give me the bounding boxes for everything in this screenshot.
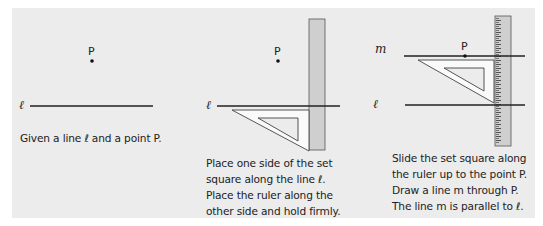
point-p-label: P	[274, 46, 281, 57]
caption-step-3: Slide the set square along the ruler up …	[392, 150, 527, 214]
panel-1-figure	[30, 59, 153, 106]
point-p	[276, 59, 280, 63]
caption-line: Place one side of the set	[206, 155, 340, 171]
caption-line: The line m is parallel to ℓ.	[392, 198, 527, 214]
line-m-label: m	[375, 43, 386, 55]
caption-line: other side and hold firmly.	[206, 203, 340, 219]
caption-line: Place the ruler along the	[206, 187, 340, 203]
caption-line: Draw a line m through P.	[392, 182, 527, 198]
set-square	[232, 110, 309, 151]
point-p-label: P	[88, 46, 95, 57]
line-l-label: ℓ	[373, 98, 378, 110]
caption-step-1: Given a line ℓ and a point P.	[20, 130, 161, 146]
caption-step-2: Place one side of the set square along t…	[206, 155, 340, 219]
ruler	[309, 19, 325, 150]
set-square	[418, 60, 494, 103]
caption-line: Slide the set square along	[392, 150, 527, 166]
line-l-label: ℓ	[19, 99, 24, 111]
panel-2-figure	[217, 19, 340, 151]
point-p-label: P	[461, 41, 468, 52]
panel-3-figure	[404, 16, 525, 146]
point-p	[90, 59, 94, 63]
caption-line: square along the line ℓ.	[206, 171, 340, 187]
line-l-label: ℓ	[206, 99, 211, 111]
caption-line: the ruler up to the point P.	[392, 166, 527, 182]
point-p	[463, 54, 467, 58]
caption-line: Given a line ℓ and a point P.	[20, 130, 161, 146]
ruler	[495, 16, 511, 146]
